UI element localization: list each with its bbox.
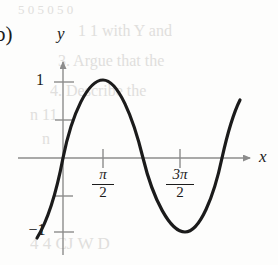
sine-curve xyxy=(37,80,240,238)
y-tick-label-neg-1: −1 xyxy=(22,221,52,239)
fraction-denominator: 2 xyxy=(166,185,194,201)
fraction-numerator: 3π xyxy=(166,167,194,183)
panel-label: b) xyxy=(0,22,13,47)
fraction-denominator: 2 xyxy=(92,185,114,201)
y-tick-label-1: 1 xyxy=(30,71,50,89)
fraction-numerator: π xyxy=(92,167,114,183)
sine-curve-figure: 5 0 5 0 5 0 1 1 with Y and 3. Argue that… xyxy=(0,0,278,265)
y-axis-label: y xyxy=(57,24,65,44)
x-tick-label-pi-over-2: π 2 xyxy=(92,167,114,201)
x-tick-label-3pi-over-2: 3π 2 xyxy=(166,167,194,201)
x-axis-label: x xyxy=(259,147,267,167)
